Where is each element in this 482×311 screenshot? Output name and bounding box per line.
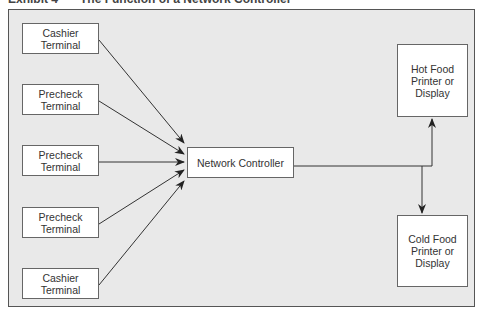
terminal-cashier-2: Cashier Terminal <box>22 268 99 299</box>
terminal-precheck-1: Precheck Terminal <box>22 84 99 115</box>
hot-food-printer: Hot Food Printer or Display <box>397 44 468 117</box>
terminal-cashier-1: Cashier Terminal <box>22 23 99 54</box>
line-to-hot-food <box>294 119 432 166</box>
terminal-precheck-2: Precheck Terminal <box>22 145 99 176</box>
network-controller: Network Controller <box>187 147 294 178</box>
cold-food-printer: Cold Food Printer or Display <box>397 215 468 287</box>
terminal-precheck-3: Precheck Terminal <box>22 207 99 238</box>
